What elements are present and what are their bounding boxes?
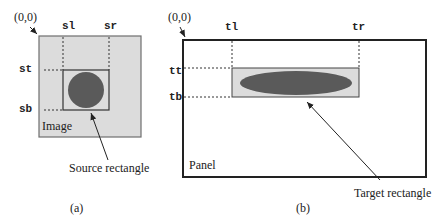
origin-arrow-a (30, 27, 37, 34)
st-label: st (19, 63, 32, 75)
tb-label: tb (169, 91, 183, 103)
diagram-canvas: (0,0) sl sr st sb Image Source rectangle… (0, 0, 438, 224)
sr-label: sr (104, 20, 117, 32)
sb-label: sb (19, 103, 33, 115)
tt-label: tt (169, 65, 182, 77)
source-rect-caption: Source rectangle (69, 161, 149, 175)
origin-label-b: (0,0) (168, 10, 191, 24)
panel-b: (0,0) tl tr tt tb Panel Target rectangle… (168, 10, 431, 215)
panel-a: (0,0) sl sr st sb Image Source rectangle… (14, 10, 149, 215)
source-circle (68, 72, 104, 108)
subfigure-b-label: (b) (296, 201, 310, 215)
origin-arrow-b (180, 27, 185, 37)
tr-label: tr (352, 21, 365, 33)
panel-rect (183, 40, 426, 177)
tl-label: tl (225, 21, 239, 33)
target-ellipse (240, 71, 352, 95)
sl-label: sl (62, 20, 76, 32)
subfigure-a-label: (a) (70, 201, 83, 215)
image-label: Image (42, 119, 72, 133)
target-rect-caption: Target rectangle (354, 186, 431, 200)
panel-label: Panel (189, 158, 216, 172)
origin-label-a: (0,0) (14, 10, 37, 24)
